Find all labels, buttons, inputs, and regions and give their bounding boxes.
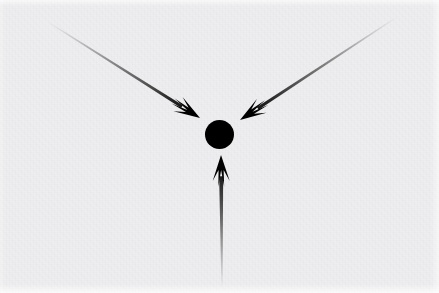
- figure-container: [0, 0, 439, 293]
- arrows-diagram: [0, 0, 439, 293]
- center-dot: [205, 120, 234, 149]
